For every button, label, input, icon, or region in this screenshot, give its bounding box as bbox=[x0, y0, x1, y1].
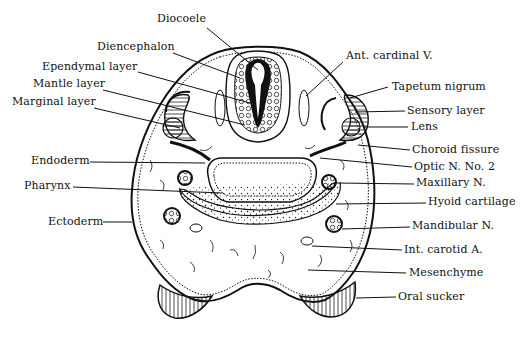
label-sensory-layer: Sensory layer bbox=[407, 105, 485, 117]
label-tapetum-nigrum: Tapetum nigrum bbox=[392, 81, 486, 93]
label-ectoderm: Ectoderm bbox=[48, 216, 103, 228]
label-diencephalon: Diencephalon bbox=[97, 41, 175, 53]
label-oral-sucker: Oral sucker bbox=[398, 291, 464, 303]
label-mesenchyme: Mesenchyme bbox=[409, 267, 483, 279]
label-choroid-fissure: Choroid fissure bbox=[412, 144, 499, 156]
lens-left bbox=[163, 118, 183, 138]
label-hyoid-cartilage: Hyoid cartilage bbox=[428, 196, 516, 208]
diencephalon bbox=[226, 51, 290, 142]
label-mantle-layer: Mantle layer bbox=[33, 78, 105, 90]
maxillary-nerve-right bbox=[322, 175, 336, 189]
label-pharynx: Pharynx bbox=[24, 180, 71, 192]
label-optic-n-no-2: Optic N. No. 2 bbox=[414, 161, 495, 173]
label-ant-cardinal-v: Ant. cardinal V. bbox=[346, 50, 433, 62]
mandibular-nerve-left bbox=[164, 208, 180, 224]
label-ependymal-layer: Ependymal layer bbox=[42, 61, 137, 73]
label-marginal-layer: Marginal layer bbox=[12, 96, 96, 108]
maxillary-nerve-left bbox=[178, 171, 192, 185]
label-lens: Lens bbox=[411, 121, 438, 133]
label-maxillary-n: Maxillary N. bbox=[416, 177, 486, 189]
label-endoderm: Endoderm bbox=[31, 155, 90, 167]
label-diocoele: Diocoele bbox=[157, 13, 206, 25]
lens-right bbox=[342, 118, 360, 136]
label-mandibular-n: Mandibular N. bbox=[412, 220, 494, 232]
label-int-carotid-a: Int. carotid A. bbox=[404, 244, 483, 256]
mandibular-nerve-right bbox=[326, 216, 342, 232]
